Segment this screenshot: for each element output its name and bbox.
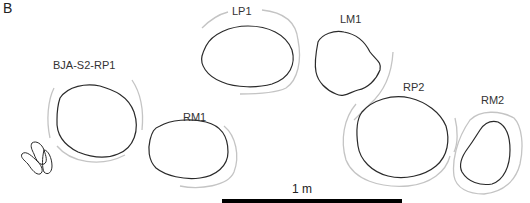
- label-lp1: LP1: [232, 5, 252, 17]
- label-rm2: RM2: [481, 94, 504, 106]
- label-bja-s2-rp1: BJA-S2-RP1: [53, 59, 115, 71]
- feature-rp2: [343, 97, 457, 187]
- feature-lp1: [202, 10, 300, 94]
- label-rp2: RP2: [403, 81, 424, 93]
- label-lm1: LM1: [340, 13, 361, 25]
- feature-bja-s2-rp1: [48, 80, 143, 162]
- scale-bar: [222, 199, 402, 203]
- plan-diagram: [0, 0, 530, 203]
- label-rm1: RM1: [183, 111, 206, 123]
- feature-rm2: [454, 112, 522, 194]
- feature-rm1: [149, 120, 237, 188]
- scale-bar-label: 1 m: [292, 182, 312, 196]
- stone-cluster: [21, 142, 52, 174]
